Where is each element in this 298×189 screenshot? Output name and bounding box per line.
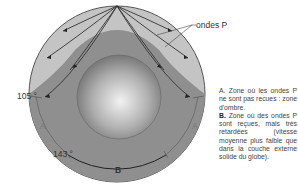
angle-143-label: 143 °: [53, 150, 73, 159]
core-sphere: [77, 55, 161, 139]
angle-105-label: 105 °: [17, 92, 37, 101]
zone-a-left-label: A: [40, 122, 46, 131]
zone-b-label: B: [115, 166, 121, 175]
caption-b: B. Zone où des ondes P sont reçues, mais…: [219, 112, 297, 162]
caption-a: A. Zone où les ondes P ne sont pas recue…: [219, 87, 297, 112]
waves-label: ondes P: [196, 21, 227, 30]
zone-a-right-label: A: [192, 122, 198, 131]
figure-caption: A. Zone où les ondes P ne sont pas recue…: [219, 87, 297, 162]
